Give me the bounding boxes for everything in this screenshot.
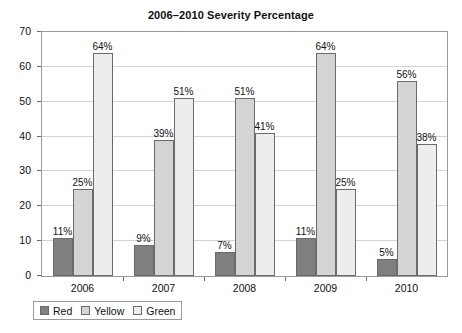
legend-label: Yellow: [94, 305, 124, 317]
bar-value-label: 41%: [254, 121, 274, 132]
bar-value-label: 5%: [379, 247, 393, 258]
x-tick-label-2010: 2010: [395, 282, 418, 294]
chart-legend: RedYellowGreen: [33, 301, 182, 320]
y-axis: 010203040506070: [0, 31, 36, 277]
y-tick-label: 70: [19, 25, 31, 37]
bar-green-2008[interactable]: 41%: [255, 133, 275, 276]
bar-red-2006[interactable]: 11%: [53, 238, 73, 276]
bar-yellow-2010[interactable]: 56%: [397, 81, 417, 276]
bar-green-2010[interactable]: 38%: [417, 144, 437, 276]
bar-group-2007: 9%39%51%: [123, 32, 204, 276]
bar-value-label: 39%: [153, 128, 173, 139]
bar-red-2009[interactable]: 11%: [296, 238, 316, 276]
bar-red-2008[interactable]: 7%: [215, 252, 235, 276]
x-tick-label-2007: 2007: [152, 282, 175, 294]
bar-value-label: 38%: [416, 132, 436, 143]
bar-group-2010: 5%56%38%: [366, 32, 447, 276]
y-tick-mark: [37, 136, 41, 137]
bar-yellow-2008[interactable]: 51%: [235, 98, 255, 276]
severity-percentage-bar-chart: 2006–2010 Severity Percentage 0102030405…: [0, 0, 462, 333]
x-tick-mark: [123, 277, 124, 281]
y-tick-label: 30: [19, 164, 31, 176]
bar-group-2009: 11%64%25%: [285, 32, 366, 276]
legend-item-yellow[interactable]: Yellow: [81, 305, 124, 317]
legend-swatch-green: [133, 306, 142, 315]
y-tick-label: 10: [19, 234, 31, 246]
x-tick-mark: [285, 277, 286, 281]
x-tick-mark: [366, 277, 367, 281]
bar-group-2006: 11%25%64%: [42, 32, 123, 276]
bar-green-2009[interactable]: 25%: [336, 189, 356, 276]
bar-yellow-2009[interactable]: 64%: [316, 53, 336, 276]
bar-yellow-2007[interactable]: 39%: [154, 140, 174, 276]
legend-item-green[interactable]: Green: [133, 305, 175, 317]
y-tick-label: 0: [25, 269, 31, 281]
x-axis: 20062007200820092010: [42, 282, 447, 298]
bar-value-label: 25%: [72, 177, 92, 188]
x-tick-mark: [204, 277, 205, 281]
x-tick-label-2009: 2009: [314, 282, 337, 294]
bar-group-2008: 7%51%41%: [204, 32, 285, 276]
bar-red-2010[interactable]: 5%: [377, 259, 397, 276]
legend-label: Green: [146, 305, 175, 317]
chart-title: 2006–2010 Severity Percentage: [0, 9, 462, 21]
bar-value-label: 9%: [136, 233, 150, 244]
legend-swatch-red: [40, 306, 49, 315]
bar-value-label: 25%: [335, 177, 355, 188]
y-tick-mark: [37, 101, 41, 102]
bar-value-label: 51%: [234, 86, 254, 97]
bar-value-label: 51%: [173, 86, 193, 97]
y-tick-mark: [37, 275, 41, 276]
legend-swatch-yellow: [81, 306, 90, 315]
y-tick-mark: [37, 170, 41, 171]
y-tick-mark: [37, 66, 41, 67]
y-tick-label: 20: [19, 199, 31, 211]
bars-layer: 11%25%64%9%39%51%7%51%41%11%64%25%5%56%3…: [42, 32, 447, 276]
legend-label: Red: [53, 305, 72, 317]
bar-value-label: 11%: [296, 226, 315, 237]
bar-green-2007[interactable]: 51%: [174, 98, 194, 276]
y-tick-label: 60: [19, 60, 31, 72]
x-tick-label-2006: 2006: [71, 282, 94, 294]
bar-value-label: 64%: [315, 41, 335, 52]
legend-item-red[interactable]: Red: [40, 305, 72, 317]
y-tick-mark: [37, 205, 41, 206]
y-tick-label: 40: [19, 130, 31, 142]
y-tick-mark: [37, 240, 41, 241]
bar-green-2006[interactable]: 64%: [93, 53, 113, 276]
bar-red-2007[interactable]: 9%: [134, 245, 154, 276]
x-tick-label-2008: 2008: [233, 282, 256, 294]
bar-value-label: 7%: [217, 240, 231, 251]
bar-value-label: 56%: [396, 69, 416, 80]
y-tick-mark: [37, 31, 41, 32]
y-tick-label: 50: [19, 95, 31, 107]
bar-value-label: 11%: [53, 226, 72, 237]
bar-value-label: 64%: [92, 41, 112, 52]
bar-yellow-2006[interactable]: 25%: [73, 189, 93, 276]
